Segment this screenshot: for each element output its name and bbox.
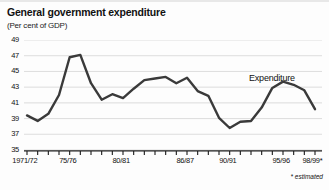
top-edge-band	[0, 0, 329, 2]
x-axis	[24, 150, 322, 158]
series-label-expenditure: Expenditure	[249, 73, 295, 83]
x-axis-tick-marks	[27, 151, 315, 155]
expenditure-line-chart	[24, 40, 322, 150]
gridlines	[24, 40, 322, 150]
chart-figure: General government expenditure (Per cent…	[0, 0, 329, 190]
y-axis-tick-label: 49	[3, 35, 19, 44]
expenditure-line	[27, 55, 315, 128]
plot-area	[24, 40, 322, 150]
page-title: General government expenditure	[7, 6, 166, 18]
y-axis-tick-label: 45	[3, 66, 19, 75]
y-axis-tick-label: 41	[3, 98, 19, 107]
y-axis-tick-label: 35	[3, 145, 19, 154]
footnote: * estimated	[290, 173, 323, 180]
y-axis-tick-label: 37	[3, 129, 19, 138]
y-axis-tick-label: 43	[3, 82, 19, 91]
chart-subtitle: (Per cent of GDP)	[7, 21, 67, 30]
y-axis-tick-label: 39	[3, 114, 19, 123]
y-axis-tick-label: 47	[3, 51, 19, 60]
